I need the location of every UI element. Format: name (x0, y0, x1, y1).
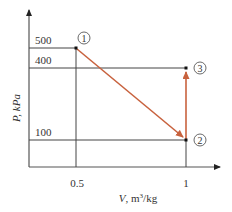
y-axis-label: P, kPa (10, 94, 22, 123)
x-tick-1: 1 (183, 177, 189, 189)
y-tick-500: 500 (35, 34, 52, 46)
state-label-2: 2 (194, 134, 206, 146)
state-point-3 (185, 67, 188, 70)
state-label-3: 3 (194, 62, 206, 74)
pv-diagram: 1 2 3 500 400 100 0.5 1 P, kPa V, m3/kg (0, 0, 232, 212)
state-point-1 (75, 47, 78, 50)
svg-text:3: 3 (198, 63, 203, 74)
state-point-2 (185, 139, 188, 142)
x-tick-0.5: 0.5 (70, 177, 84, 189)
state-label-1: 1 (78, 32, 90, 44)
y-tick-400: 400 (35, 54, 52, 66)
svg-text:1: 1 (82, 33, 87, 44)
x-axis-label: V, m3/kg (119, 192, 158, 204)
svg-text:2: 2 (198, 135, 203, 146)
y-tick-100: 100 (35, 126, 52, 138)
process-1-2 (77, 49, 183, 137)
